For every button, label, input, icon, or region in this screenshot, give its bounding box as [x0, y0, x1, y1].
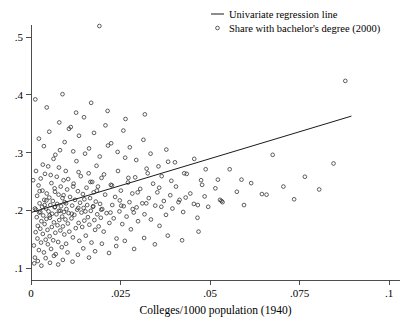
y-tick-label: .1: [15, 262, 23, 274]
y-tick-label: .3: [15, 147, 24, 159]
x-tick-label: .1: [385, 287, 393, 299]
x-tick-label: 0: [28, 287, 34, 299]
x-tick-label: .05: [203, 287, 217, 299]
x-tick-label: .075: [290, 287, 310, 299]
legend-label-regression: Univariate regression line: [229, 9, 338, 20]
x-axis-title: Colleges/1000 population (1940): [139, 304, 291, 317]
x-tick-label: .025: [111, 287, 131, 299]
y-tick-label: .4: [15, 89, 24, 101]
y-tick-label: .2: [15, 204, 23, 216]
chart-background: [0, 0, 414, 321]
legend-label-scatter: Share with bachelor's degree (2000): [229, 23, 381, 35]
y-tick-label: .5: [15, 31, 24, 43]
plot-area: .1.2.3.4.5 0.025.05.075.1 Colleges/1000 …: [0, 0, 414, 321]
scatter-chart: .1.2.3.4.5 0.025.05.075.1 Colleges/1000 …: [0, 0, 414, 321]
